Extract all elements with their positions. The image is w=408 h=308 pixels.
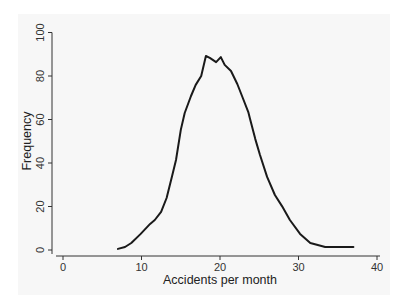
x-axis: 010203040 [56,256,383,273]
y-tick-label: 40 [34,157,46,169]
x-tick-label: 30 [292,261,304,273]
y-tick-label: 20 [34,200,46,212]
x-tick-label: 0 [60,261,66,273]
y-tick-label: 0 [34,247,46,253]
y-tick-label: 100 [34,23,46,41]
x-tick-label: 10 [135,261,147,273]
frequency-line-chart: 020406080100 010203040 Accidents per mon… [0,0,408,308]
frequency-curve [118,56,354,249]
y-axis-title: Frequency [20,111,34,171]
x-tick-label: 20 [214,261,226,273]
y-tick-label: 60 [34,113,46,125]
y-axis: 020406080100 [34,23,52,254]
x-axis-title: Accidents per month [163,273,277,287]
x-tick-label: 40 [371,261,383,273]
y-tick-label: 80 [34,70,46,82]
